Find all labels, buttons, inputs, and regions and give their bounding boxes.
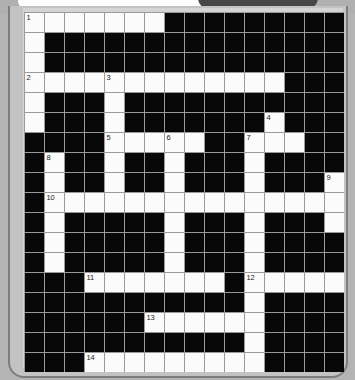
crossword-cell-open[interactable] [105,193,124,212]
crossword-cell-open[interactable] [245,173,264,192]
crossword-cell-open[interactable]: 7 [245,133,264,152]
crossword-cell-open[interactable] [125,193,144,212]
crossword-cell-open[interactable] [105,353,124,372]
crossword-cell-open[interactable] [245,353,264,372]
crossword-cell-open[interactable] [85,13,104,32]
crossword-cell-open[interactable] [125,73,144,92]
crossword-cell-open[interactable] [245,253,264,272]
crossword-cell-open[interactable] [105,173,124,192]
crossword-cell-open[interactable] [325,213,344,232]
crossword-cell-open[interactable]: 1 [25,13,44,32]
crossword-cell-open[interactable] [125,353,144,372]
crossword-cell-open[interactable]: 8 [45,153,64,172]
crossword-cell-open[interactable] [185,133,204,152]
crossword-cell-open[interactable] [165,153,184,172]
crossword-cell-open[interactable] [265,133,284,152]
crossword-cell-open[interactable] [145,353,164,372]
crossword-cell-open[interactable]: 14 [85,353,104,372]
crossword-cell-open[interactable] [85,193,104,212]
crossword-cell-open[interactable] [45,213,64,232]
crossword-cell-open[interactable] [165,273,184,292]
crossword-cell-open[interactable] [105,273,124,292]
crossword-cell-open[interactable]: 4 [265,113,284,132]
crossword-cell-open[interactable]: 9 [325,173,344,192]
crossword-cell-open[interactable] [225,73,244,92]
crossword-cell-open[interactable] [165,233,184,252]
crossword-cell-open[interactable] [185,273,204,292]
crossword-cell-open[interactable]: 5 [105,133,124,152]
crossword-cell-open[interactable] [85,73,104,92]
crossword-cell-open[interactable] [225,313,244,332]
crossword-cell-open[interactable] [165,193,184,212]
crossword-cell-open[interactable] [165,313,184,332]
crossword-cell-open[interactable] [205,273,224,292]
crossword-cell-open[interactable] [65,13,84,32]
crossword-cell-open[interactable] [185,193,204,212]
crossword-cell-open[interactable] [45,13,64,32]
crossword-cell-open[interactable]: 2 [25,73,44,92]
crossword-cell-open[interactable] [245,233,264,252]
crossword-cell-open[interactable] [25,93,44,112]
crossword-cell-open[interactable] [165,173,184,192]
crossword-cell-open[interactable] [45,253,64,272]
crossword-cell-open[interactable] [245,153,264,172]
crossword-cell-open[interactable]: 3 [105,73,124,92]
crossword-cell-open[interactable] [245,293,264,312]
crossword-cell-open[interactable] [265,273,284,292]
crossword-cell-open[interactable] [205,353,224,372]
crossword-cell-open[interactable] [65,193,84,212]
crossword-cell-open[interactable] [25,53,44,72]
crossword-cell-open[interactable] [165,73,184,92]
crossword-cell-open[interactable] [285,193,304,212]
crossword-cell-open[interactable] [265,73,284,92]
crossword-cell-open[interactable]: 13 [145,313,164,332]
crossword-cell-open[interactable] [245,213,264,232]
crossword-cell-open[interactable] [105,113,124,132]
crossword-cell-open[interactable] [285,133,304,152]
crossword-cell-open[interactable] [125,273,144,292]
crossword-cell-open[interactable] [185,353,204,372]
crossword-cell-open[interactable] [225,193,244,212]
crossword-cell-open[interactable] [25,33,44,52]
crossword-cell-open[interactable] [45,173,64,192]
crossword-cell-open[interactable] [205,73,224,92]
crossword-cell-open[interactable] [245,333,264,352]
crossword-cell-open[interactable] [125,133,144,152]
crossword-cell-open[interactable]: 6 [165,133,184,152]
crossword-cell-open[interactable] [285,273,304,292]
crossword-cell-open[interactable] [185,73,204,92]
crossword-cell-open[interactable] [165,353,184,372]
crossword-cell-open[interactable] [245,73,264,92]
crossword-cell-open[interactable] [45,73,64,92]
crossword-cell-open[interactable] [325,193,344,212]
crossword-cell-open[interactable] [105,153,124,172]
crossword-cell-open[interactable]: 11 [85,273,104,292]
crossword-cell-open[interactable] [125,13,144,32]
crossword-cell-open[interactable] [145,133,164,152]
crossword-cell-open[interactable] [305,273,324,292]
crossword-cell-open[interactable] [245,313,264,332]
crossword-cell-open[interactable] [45,233,64,252]
crossword-cell-open[interactable] [205,193,224,212]
crossword-cell-open[interactable] [145,193,164,212]
crossword-grid[interactable]: 1234567891011121314 [25,13,344,372]
crossword-cell-open[interactable] [105,13,124,32]
crossword-cell-open[interactable] [305,193,324,212]
crossword-cell-open[interactable] [325,273,344,292]
crossword-cell-open[interactable]: 12 [245,273,264,292]
crossword-cell-open[interactable] [145,273,164,292]
crossword-cell-open[interactable] [225,353,244,372]
crossword-cell-open[interactable] [265,193,284,212]
crossword-cell-open[interactable]: 10 [45,193,64,212]
crossword-cell-open[interactable] [25,113,44,132]
crossword-cell-open[interactable] [145,13,164,32]
crossword-cell-open[interactable] [245,193,264,212]
crossword-cell-open[interactable] [165,213,184,232]
crossword-cell-open[interactable] [145,73,164,92]
crossword-cell-open[interactable] [105,93,124,112]
crossword-cell-open[interactable] [205,313,224,332]
crossword-cell-open[interactable] [65,73,84,92]
crossword-cell-blocked [185,93,204,112]
crossword-cell-open[interactable] [185,313,204,332]
crossword-cell-open[interactable] [165,253,184,272]
